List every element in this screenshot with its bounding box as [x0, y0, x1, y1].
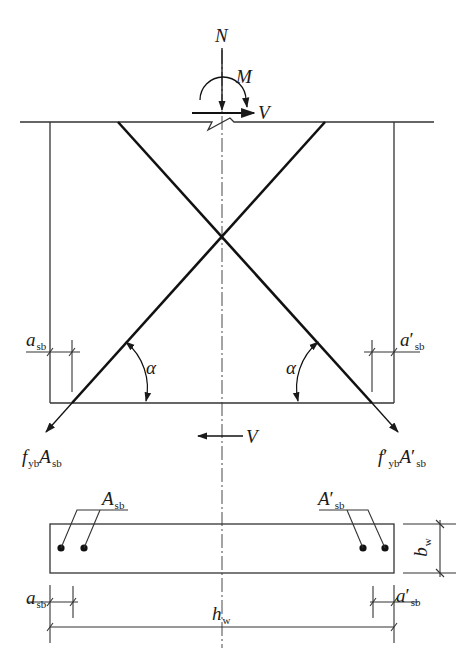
section-cover-right-label: a′sb [396, 586, 420, 605]
bars-right-label: A′sb [318, 489, 345, 508]
section-bars [57, 544, 388, 551]
top-boundary-line [20, 118, 434, 130]
moment-label: M [236, 67, 252, 86]
angle-arc-left [126, 342, 147, 401]
width-label: bw [411, 538, 430, 556]
section-cover-left-label: asb [26, 588, 46, 607]
angle-arc-right [297, 342, 318, 401]
bar-leaders [61, 510, 385, 548]
shear-bottom-label: V [246, 427, 258, 446]
bars-left-label: Asb [102, 489, 124, 508]
angle-left-label: α [146, 358, 156, 377]
axial-force-label: N [215, 26, 228, 45]
force-arrow-right [372, 403, 398, 432]
force-left-label: fybAsb [22, 447, 62, 466]
cover-right-label: a′sb [400, 330, 424, 349]
angle-right-label: α [286, 358, 296, 377]
cover-left-label: asb [26, 330, 46, 349]
force-right-label: f′ybA′sb [378, 447, 426, 466]
shear-top-label: V [258, 103, 270, 122]
length-label: hw [212, 604, 230, 623]
force-arrow-left [46, 403, 72, 432]
